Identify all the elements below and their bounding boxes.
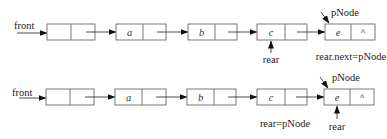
rear-label: rear — [263, 54, 280, 65]
node-value: e — [336, 27, 341, 38]
caption: rear=pNode — [260, 118, 311, 129]
pnode-arrow — [321, 12, 329, 23]
node-value: a — [127, 27, 132, 38]
node-value: b — [198, 92, 203, 103]
front-label: front — [14, 20, 34, 31]
node-value: a — [126, 92, 131, 103]
node-value: b — [199, 27, 204, 38]
linked-queue-enqueue-diagram: front a b c — [0, 0, 387, 139]
diagram-after: front a b c e ^ — [12, 72, 374, 132]
pnode-label: pNode — [332, 72, 360, 83]
front-label: front — [12, 87, 32, 98]
rear-label: rear — [329, 121, 346, 132]
pnode-arrow — [320, 77, 328, 88]
diagram-before: front a b c — [14, 7, 387, 65]
node-value: c — [269, 27, 274, 38]
pnode-label: pNode — [331, 7, 359, 18]
node-value: e — [335, 92, 340, 103]
caption: rear.next=pNode — [316, 51, 387, 62]
node-e: e ^ — [324, 89, 374, 105]
node-e: e ^ — [325, 24, 375, 40]
node-value: c — [269, 92, 274, 103]
